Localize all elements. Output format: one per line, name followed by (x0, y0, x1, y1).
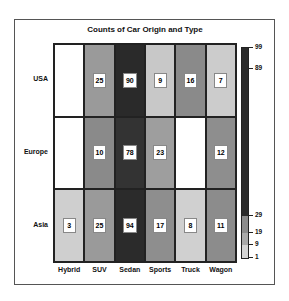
heatmap-cell: 23 (145, 117, 175, 190)
colorbar-tick-label: 19 (249, 228, 262, 235)
heatmap-cell: 9 (145, 44, 175, 117)
x-axis-label: Hybrid (54, 266, 84, 273)
heatmap-cell: 78 (115, 117, 145, 190)
x-axis-label: SUV (84, 266, 114, 273)
cell-value-label: 25 (93, 218, 107, 233)
cell-value-label: 90 (123, 73, 137, 88)
x-axis-label: Wagon (206, 266, 236, 273)
cell-value-label: 8 (184, 218, 197, 233)
cell-value-label: 23 (153, 145, 167, 160)
cell-value-label: 11 (214, 218, 227, 233)
heatmap-grid: 25909167107823123259417811 (53, 43, 237, 263)
y-axis-label: Asia (14, 221, 48, 228)
heatmap-cell: 3 (54, 189, 84, 262)
cell-value-label: 17 (153, 218, 167, 233)
cell-value-label: 10 (93, 145, 107, 160)
heatmap-cell: 17 (145, 189, 175, 262)
heatmap-cell: 8 (175, 189, 205, 262)
x-axis-label: Truck (175, 266, 205, 273)
colorbar-tick-label: 29 (249, 211, 262, 218)
heatmap-cell: 25 (84, 44, 114, 117)
y-axis-label: USA (14, 75, 48, 82)
heatmap-cell: 7 (206, 44, 236, 117)
colorbar-tick-label: 9 (249, 240, 259, 247)
colorbar-segment (242, 48, 248, 216)
heatmap-cell: 94 (115, 189, 145, 262)
cell-value-label: 3 (63, 218, 76, 233)
colorbar-segment (242, 245, 248, 258)
heatmap-cell (54, 117, 84, 190)
cell-value-label: 7 (214, 73, 227, 88)
x-axis-label: Sports (145, 266, 175, 273)
cell-value-label: 12 (214, 145, 228, 160)
chart-title: Counts of Car Origin and Type (54, 25, 236, 34)
y-axis-label: Europe (14, 148, 48, 155)
cell-value-label: 94 (123, 218, 137, 233)
heatmap-cell (54, 44, 84, 117)
colorbar-tick-label: 89 (249, 64, 262, 71)
heatmap-cell: 12 (206, 117, 236, 190)
cell-value-label: 78 (123, 145, 137, 160)
cell-value-label: 25 (93, 73, 107, 88)
colorbar-tick-label: 1 (249, 253, 259, 260)
heatmap-cell: 16 (175, 44, 205, 117)
colorbar (241, 47, 249, 259)
heatmap-cell: 10 (84, 117, 114, 190)
colorbar-tick-label: 99 (249, 43, 262, 50)
heatmap-cell (175, 117, 205, 190)
cell-value-label: 9 (154, 73, 167, 88)
colorbar-segment (242, 233, 248, 245)
heatmap-cell: 90 (115, 44, 145, 117)
x-axis-label: Sedan (115, 266, 145, 273)
heatmap-cell: 11 (206, 189, 236, 262)
cell-value-label: 16 (184, 73, 198, 88)
heatmap-cell: 25 (84, 189, 114, 262)
colorbar-segment (242, 216, 248, 233)
